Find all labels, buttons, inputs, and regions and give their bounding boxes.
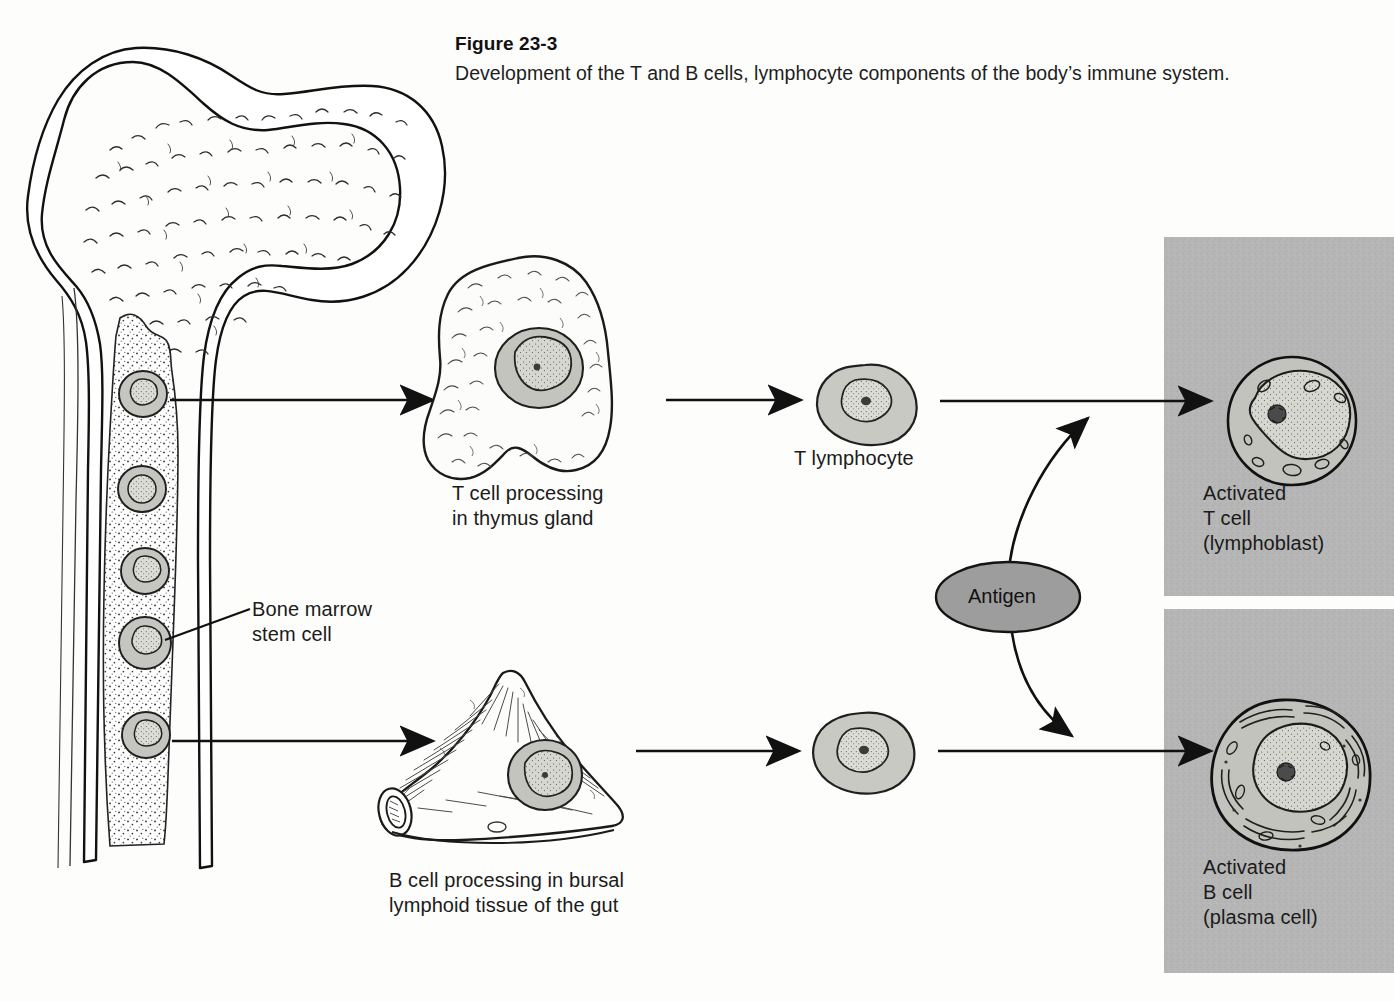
stem-cell: [118, 466, 166, 512]
stem-cell-labelled: [119, 617, 171, 669]
stem-cell: [119, 371, 167, 417]
label-b-cell-processing: B cell processing in bursal lymphoid tis…: [389, 868, 624, 918]
activated-b-cell: [1212, 700, 1370, 850]
figure-illustration: [0, 0, 1394, 1001]
thymus-gland: [424, 256, 612, 479]
bursal-lymphoid-tissue: [374, 671, 623, 843]
thymus-cell: [495, 328, 583, 408]
antigen-arrow-to-t-pathway: [1010, 418, 1088, 561]
antigen-arrow-to-b-pathway: [1012, 633, 1072, 736]
b-lymphocyte-cell: [813, 713, 914, 794]
nucleolus: [1277, 763, 1295, 781]
nucleolus: [1268, 405, 1286, 423]
figure-number: Figure 23-3: [455, 33, 1355, 55]
label-bone-marrow-stem-cell: Bone marrow stem cell: [252, 597, 372, 647]
label-t-cell-processing: T cell processing in thymus gland: [452, 481, 603, 531]
label-activated-b-cell: Activated B cell (plasma cell): [1203, 855, 1318, 930]
t-lymphocyte-cell: [817, 365, 917, 445]
stem-cell: [121, 548, 169, 594]
label-antigen: Antigen: [968, 585, 1036, 608]
femur-bone: [27, 48, 445, 868]
figure-caption: Development of the T and B cells, lympho…: [455, 62, 1355, 85]
label-t-lymphocyte: T lymphocyte: [794, 446, 914, 471]
activated-t-cell: [1228, 357, 1356, 485]
figure-root: Figure 23-3 Development of the T and B c…: [0, 0, 1394, 1001]
stem-cell: [122, 712, 170, 758]
figure-caption-block: Figure 23-3 Development of the T and B c…: [455, 33, 1355, 85]
bursa-cell: [508, 740, 582, 810]
label-activated-t-cell: Activated T cell (lymphoblast): [1203, 481, 1324, 556]
